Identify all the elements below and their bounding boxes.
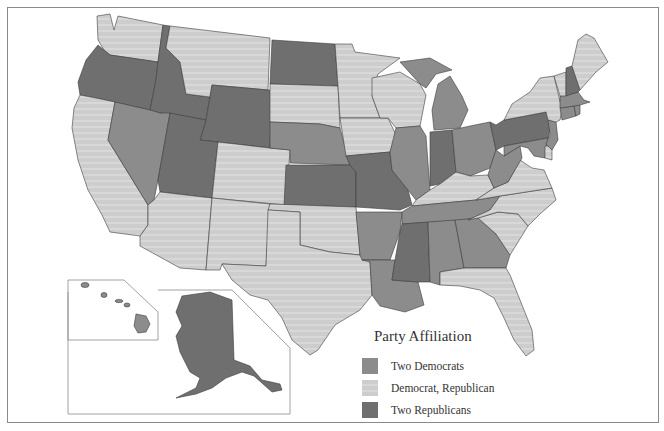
state-NM[interactable] [206,198,270,270]
state-WY[interactable] [200,85,272,148]
state-AK[interactable] [176,292,282,398]
state-ME[interactable] [572,34,608,90]
swatch-two-democrats [362,358,378,374]
state-AZ[interactable] [140,192,212,270]
state-ND[interactable] [270,40,338,86]
state-HI[interactable] [81,283,150,334]
legend: Party Affiliation Two Democrats Democrat… [362,328,542,421]
state-SD[interactable] [270,84,340,128]
us-map [0,0,664,431]
legend-item-two-republicans: Two Republicans [362,399,542,421]
swatch-two-republicans [362,402,378,418]
legend-item-two-democrats: Two Democrats [362,355,542,377]
state-CO[interactable] [212,142,290,205]
state-OH[interactable] [452,122,496,176]
legend-item-democrat-republican: Democrat, Republican [362,377,542,399]
swatch-democrat-republican [362,380,378,396]
legend-label: Two Democrats [391,360,464,372]
legend-label: Two Republicans [391,404,471,416]
legend-label: Democrat, Republican [391,382,494,394]
state-CT[interactable] [560,106,576,120]
state-KS[interactable] [284,165,356,207]
legend-title: Party Affiliation [374,328,542,345]
state-AR[interactable] [356,212,402,260]
state-IA[interactable] [340,118,396,156]
